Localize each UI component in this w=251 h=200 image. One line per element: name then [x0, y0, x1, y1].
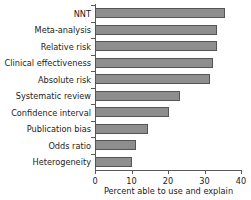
x-axis-tick-label: 20 [158, 176, 178, 186]
y-axis-tick [91, 71, 95, 72]
y-axis-tick [91, 154, 95, 155]
bar [95, 74, 210, 84]
category-label: Systematic review [0, 91, 91, 101]
x-axis-tick-label: 40 [231, 176, 251, 186]
bar-row [95, 88, 241, 105]
bar [95, 124, 148, 134]
x-axis-title: Percent able to use and explain [95, 186, 242, 196]
category-label: Odds ratio [0, 141, 91, 151]
bar [95, 91, 180, 101]
y-axis-tick [91, 137, 95, 138]
bar-row [95, 121, 241, 138]
bar [95, 140, 136, 150]
x-axis-tick [168, 170, 169, 174]
category-label: Confidence interval [0, 108, 91, 118]
y-axis-tick [91, 22, 95, 23]
bar-row [95, 5, 241, 22]
y-axis-tick [91, 5, 95, 6]
bar-series [95, 5, 241, 170]
bar-row [95, 55, 241, 72]
category-label: Publication bias [0, 124, 91, 134]
category-label: NNT [0, 9, 91, 19]
bar-chart: NNTMeta-analysisRelative riskClinical ef… [0, 0, 251, 200]
plot-area [95, 5, 241, 170]
category-label: Meta-analysis [0, 25, 91, 35]
bar [95, 8, 225, 18]
y-axis-tick [91, 38, 95, 39]
bar-row [95, 38, 241, 55]
x-axis-tick [241, 170, 242, 174]
bar-row [95, 137, 241, 154]
y-axis-tick [91, 104, 95, 105]
x-axis-tick-label: 10 [122, 176, 142, 186]
bar-row [95, 71, 241, 88]
category-label: Absolute risk [0, 75, 91, 85]
category-label: Clinical effectiveness [0, 58, 91, 68]
bar-row [95, 154, 241, 171]
x-axis-tick [205, 170, 206, 174]
x-axis-tick-label: 30 [195, 176, 215, 186]
category-label: Heterogeneity [0, 157, 91, 167]
x-axis-tick [132, 170, 133, 174]
bar [95, 58, 213, 68]
bar [95, 41, 217, 51]
x-axis-tick [95, 170, 96, 174]
y-axis-tick [91, 55, 95, 56]
category-label: Relative risk [0, 42, 91, 52]
bar-row [95, 104, 241, 121]
y-axis-tick [91, 121, 95, 122]
bar [95, 157, 132, 167]
bar-row [95, 22, 241, 39]
bar [95, 107, 169, 117]
x-axis-tick-label: 0 [85, 176, 105, 186]
bar [95, 25, 217, 35]
y-axis-tick [91, 88, 95, 89]
category-axis-labels: NNTMeta-analysisRelative riskClinical ef… [0, 5, 91, 170]
